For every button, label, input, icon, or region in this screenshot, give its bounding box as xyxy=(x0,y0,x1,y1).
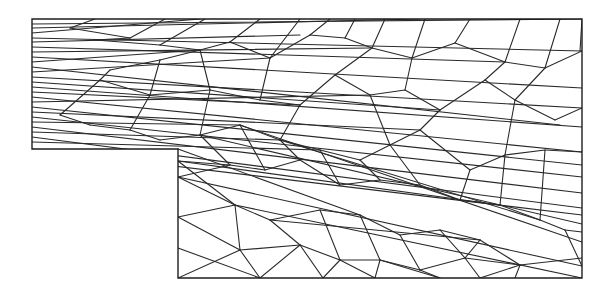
mesh-edge xyxy=(545,19,560,68)
mesh-edge xyxy=(320,210,340,260)
mesh-edge xyxy=(323,260,340,278)
mesh-edge xyxy=(260,245,300,278)
mesh-edge xyxy=(335,48,372,75)
mesh-edge xyxy=(270,210,320,220)
mesh-edge xyxy=(370,95,390,145)
mesh-edge xyxy=(360,145,390,160)
mesh-edge xyxy=(372,48,412,58)
mesh-edge xyxy=(178,205,235,217)
mesh-edge xyxy=(372,19,385,48)
mesh-edge xyxy=(240,125,582,242)
mesh-edge xyxy=(420,258,465,270)
mesh-edge xyxy=(260,58,270,100)
mesh-edge xyxy=(32,19,200,33)
mesh-edge xyxy=(32,58,270,72)
mesh-edge xyxy=(360,215,380,260)
mesh-edge xyxy=(465,258,480,278)
mesh-edge xyxy=(335,75,370,95)
mesh-edge xyxy=(565,230,582,266)
mesh-edge xyxy=(178,177,235,205)
mesh-edge xyxy=(370,90,405,95)
mesh-edge xyxy=(265,160,300,170)
mesh-edge xyxy=(130,19,165,38)
mesh-edge xyxy=(480,265,520,278)
mesh-edge xyxy=(412,43,455,58)
mesh-edge xyxy=(32,122,240,125)
mesh-edge xyxy=(455,19,470,43)
mesh-edge xyxy=(160,45,200,50)
mesh-edge xyxy=(375,260,380,278)
mesh-edge xyxy=(505,150,545,155)
mesh-edge xyxy=(420,270,440,278)
mesh-edge xyxy=(505,62,545,68)
mesh-edge xyxy=(178,217,240,250)
mesh-edge xyxy=(340,260,375,278)
mesh-edge xyxy=(505,100,515,155)
mesh-edge xyxy=(505,19,520,62)
mesh-edge xyxy=(200,90,210,135)
mesh-edge xyxy=(240,245,300,250)
mesh-edge xyxy=(555,108,582,120)
mesh-edge xyxy=(200,42,230,50)
mesh-edge xyxy=(178,250,240,278)
mesh-edge xyxy=(300,75,335,105)
mesh-edge xyxy=(300,245,340,260)
mesh-edge xyxy=(440,230,465,258)
mesh-edge xyxy=(235,205,240,250)
mesh-edge xyxy=(485,62,505,80)
mesh-edge xyxy=(380,260,440,278)
mesh-edge xyxy=(270,19,300,58)
mesh-edge xyxy=(70,28,130,38)
mesh-edge xyxy=(412,19,425,58)
mesh-edge xyxy=(200,50,210,90)
mesh-edge xyxy=(565,230,582,232)
mesh-edge xyxy=(200,135,582,224)
mesh-edge xyxy=(405,58,412,90)
mesh-edge xyxy=(345,38,372,48)
mesh-edge xyxy=(440,80,485,110)
mesh-edge xyxy=(270,35,310,58)
mesh-edge xyxy=(515,100,555,120)
mesh-edge xyxy=(390,130,420,145)
mesh-edge xyxy=(455,43,505,62)
mesh-edge xyxy=(235,205,270,220)
mesh-edge xyxy=(270,220,300,245)
mesh-figure: Triangular finite element mesh of L-shap… xyxy=(0,0,611,291)
mesh-diagram xyxy=(0,0,611,291)
mesh-edge xyxy=(345,19,355,38)
mesh-edge xyxy=(420,130,470,170)
mesh-edge xyxy=(545,51,582,68)
mesh-edge xyxy=(178,248,260,278)
mesh-edge xyxy=(420,110,440,130)
mesh-edge xyxy=(310,35,345,38)
mesh-edge xyxy=(300,245,323,278)
